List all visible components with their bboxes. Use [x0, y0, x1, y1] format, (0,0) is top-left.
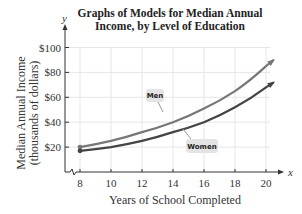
chart-plot: xy8101214161820$20$40$60$80$100MenWomen: [0, 0, 302, 214]
y-axis-arrow-icon: [63, 24, 68, 30]
x-axis-arrow-icon: [278, 170, 284, 175]
x-tick-label: 16: [199, 177, 211, 189]
x-tick-label: 18: [230, 177, 242, 189]
x-axis-variable: x: [287, 166, 293, 178]
y-tick-label: $60: [45, 91, 62, 103]
women-label: Women: [187, 143, 216, 151]
men-label: Men: [147, 92, 164, 100]
women-start-point: [78, 148, 83, 153]
y-tick-label: $100: [39, 42, 62, 54]
x-tick-label: 20: [261, 177, 273, 189]
y-tick-label: $80: [45, 66, 62, 78]
men-label-leader: [158, 102, 163, 112]
x-tick-label: 12: [137, 177, 148, 189]
women-label-leader: [183, 129, 191, 139]
x-tick-label: 14: [168, 177, 180, 189]
x-tick-label: 10: [106, 177, 118, 189]
y-tick-label: $20: [45, 141, 62, 153]
x-tick-label: 8: [77, 177, 83, 189]
y-axis-variable: y: [61, 12, 67, 24]
y-tick-label: $40: [45, 116, 62, 128]
men-curve: [80, 60, 274, 147]
